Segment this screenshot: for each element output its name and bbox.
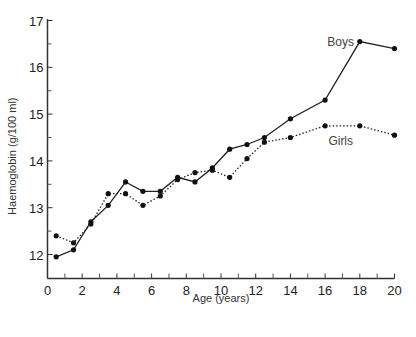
y-tick-label: 14 — [29, 154, 43, 169]
data-point-boys — [140, 189, 145, 194]
data-point-girls — [227, 175, 232, 180]
data-point-boys — [262, 135, 267, 140]
data-point-boys — [357, 39, 362, 44]
x-tick-label: 6 — [148, 283, 155, 298]
ticks: 12131415161702468101214161820 — [29, 14, 402, 298]
data-point-boys — [323, 97, 328, 102]
data-point-girls — [323, 123, 328, 128]
data-point-girls — [392, 133, 397, 138]
series-label-girls: Girls — [328, 134, 353, 148]
data-point-boys — [71, 247, 76, 252]
data-point-girls — [288, 135, 293, 140]
data-point-girls — [123, 191, 128, 196]
y-tick-label: 15 — [29, 107, 43, 122]
data-point-girls — [210, 168, 215, 173]
x-tick-label: 2 — [79, 283, 86, 298]
x-tick-label: 8 — [183, 283, 190, 298]
series-label-boys: Boys — [327, 35, 354, 49]
data-point-boys — [244, 142, 249, 147]
series-points — [54, 39, 398, 259]
x-tick-label: 12 — [248, 283, 262, 298]
y-tick-label: 17 — [29, 14, 43, 29]
data-point-girls — [106, 191, 111, 196]
x-tick-label: 18 — [353, 283, 367, 298]
data-point-girls — [175, 177, 180, 182]
data-point-girls — [244, 156, 249, 161]
data-point-boys — [288, 116, 293, 121]
data-point-boys — [106, 203, 111, 208]
data-point-boys — [192, 179, 197, 184]
data-point-boys — [158, 189, 163, 194]
y-tick-label: 16 — [29, 60, 43, 75]
y-tick-label: 12 — [29, 248, 43, 263]
data-point-girls — [71, 240, 76, 245]
x-tick-label: 0 — [44, 283, 51, 298]
series-line-boys — [56, 42, 394, 257]
data-point-girls — [54, 233, 59, 238]
x-tick-label: 14 — [283, 283, 297, 298]
axes — [48, 19, 395, 279]
x-tick-label: 16 — [318, 283, 332, 298]
data-point-girls — [140, 203, 145, 208]
data-point-girls — [262, 140, 267, 145]
data-point-boys — [54, 254, 59, 259]
y-axis-title: Haemoglobin (g/100 ml) — [6, 98, 18, 215]
data-point-boys — [123, 179, 128, 184]
x-tick-label: 20 — [387, 283, 401, 298]
data-point-boys — [392, 46, 397, 51]
x-tick-label: 4 — [113, 283, 120, 298]
data-point-boys — [227, 147, 232, 152]
data-point-girls — [88, 221, 93, 226]
x-axis-title: Age (years) — [193, 292, 250, 304]
y-tick-label: 13 — [29, 201, 43, 216]
series-lines — [56, 42, 394, 257]
data-point-girls — [192, 170, 197, 175]
data-point-girls — [158, 193, 163, 198]
haemoglobin-chart: 12131415161702468101214161820 Age (years… — [0, 0, 416, 337]
data-point-girls — [357, 123, 362, 128]
